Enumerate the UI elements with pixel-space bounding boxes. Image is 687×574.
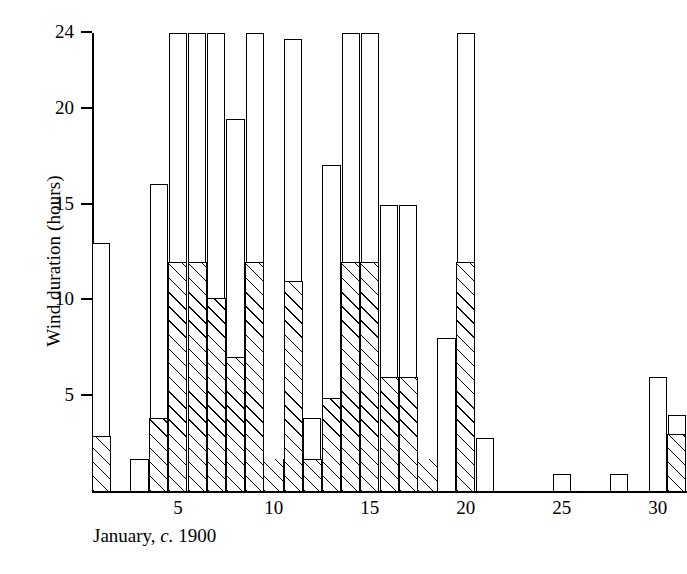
x-tick-label-5: 5 xyxy=(173,497,183,519)
bar-hatched-segment-day-16 xyxy=(380,377,399,492)
bar-day-15 xyxy=(361,33,379,491)
caption-year: 1900 xyxy=(178,525,216,546)
bar-day-21 xyxy=(476,438,494,491)
bar-hatched-segment-day-8 xyxy=(226,357,245,491)
y-axis-label: Wind duration (hours) xyxy=(43,111,65,411)
bar-hatched-segment-day-31 xyxy=(667,434,686,491)
bar-hatched-segment-day-18 xyxy=(417,459,438,491)
bar-day-31 xyxy=(668,415,686,491)
bar-hatched-segment-day-12 xyxy=(303,459,322,491)
bar-day-18 xyxy=(418,459,436,491)
bar-day-28 xyxy=(610,474,628,491)
bar-hatched-segment-day-15 xyxy=(360,262,379,491)
caption-month: January, xyxy=(93,525,156,546)
y-tick-24: 24 xyxy=(81,31,92,33)
bar-hatched-segment-day-1 xyxy=(92,436,111,491)
y-tick-label-10: 10 xyxy=(55,289,74,308)
bar-day-19 xyxy=(437,338,455,491)
y-tick-5: 5 xyxy=(81,394,92,396)
x-tick-label-10: 10 xyxy=(264,497,283,519)
bar-hatched-segment-day-20 xyxy=(456,262,475,491)
bar-day-11 xyxy=(284,39,302,491)
bar-day-10 xyxy=(265,459,283,491)
y-tick-15: 15 xyxy=(81,203,92,205)
y-tick-label-24: 24 xyxy=(55,22,74,41)
caption-circa: c. xyxy=(160,525,173,546)
bar-day-5 xyxy=(169,33,187,491)
bar-day-4 xyxy=(150,184,168,491)
bar-hatched-segment-day-10 xyxy=(263,459,284,491)
y-tick-label-15: 15 xyxy=(55,193,74,212)
bar-day-13 xyxy=(322,165,340,491)
bar-hatched-segment-day-13 xyxy=(322,398,341,492)
x-tick-label-25: 25 xyxy=(552,497,571,519)
bar-day-6 xyxy=(188,33,206,491)
bar-hatched-segment-day-14 xyxy=(341,262,360,491)
bar-day-7 xyxy=(207,33,225,491)
y-tick-label-5: 5 xyxy=(65,384,75,403)
x-tick-label-15: 15 xyxy=(360,497,379,519)
bar-day-20 xyxy=(457,33,475,491)
y-tick-20: 20 xyxy=(81,107,92,109)
x-tick-label-30: 30 xyxy=(648,497,667,519)
bar-day-17 xyxy=(399,205,417,491)
bar-day-1 xyxy=(92,243,110,491)
bar-day-25 xyxy=(553,474,571,491)
bar-day-9 xyxy=(246,33,264,491)
bar-hatched-segment-day-4 xyxy=(149,418,168,491)
bar-day-3 xyxy=(130,459,148,491)
x-tick-label-20: 20 xyxy=(456,497,475,519)
y-tick-10: 10 xyxy=(81,298,92,300)
x-axis-line xyxy=(92,491,687,493)
bar-day-12 xyxy=(303,418,321,491)
wind-duration-chart: Wind duration (hours) 242015105 January,… xyxy=(0,0,687,574)
bar-hatched-segment-day-17 xyxy=(399,377,418,492)
bar-day-14 xyxy=(342,33,360,491)
plot-area: 242015105 xyxy=(92,33,687,491)
bar-hatched-segment-day-11 xyxy=(284,281,303,491)
bar-day-8 xyxy=(226,119,244,491)
bar-hatched-segment-day-5 xyxy=(168,262,187,491)
bar-day-30 xyxy=(649,377,667,492)
bar-hatched-segment-day-7 xyxy=(207,298,226,491)
x-axis-caption: January, c. 1900 xyxy=(93,525,216,547)
bar-hatched-segment-day-9 xyxy=(245,262,264,491)
bar-day-16 xyxy=(380,205,398,491)
bar-hatched-segment-day-6 xyxy=(188,262,207,491)
y-tick-label-20: 20 xyxy=(55,98,74,117)
